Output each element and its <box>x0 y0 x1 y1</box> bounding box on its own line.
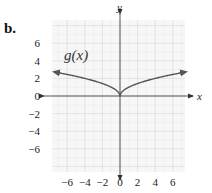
x-tick-label: −6 <box>61 176 73 188</box>
y-tick-label: −4 <box>28 125 40 137</box>
y-tick-label: −6 <box>28 143 40 155</box>
x-tick-label: 2 <box>135 176 141 188</box>
y-tick-label: −2 <box>28 108 40 120</box>
y-tick-label: 4 <box>35 55 41 67</box>
x-tick-label: 6 <box>170 176 176 188</box>
function-label: g(x) <box>64 47 88 64</box>
y-tick-label: 2 <box>35 72 41 84</box>
y-tick-label: 6 <box>35 37 41 49</box>
x-tick-label: −2 <box>97 176 109 188</box>
function-graph: −6−4−202466420−2−4−6 g(x) x y <box>0 0 212 193</box>
x-axis-label: x <box>196 90 202 102</box>
x-tick-label: −4 <box>79 176 91 188</box>
y-axis-label: y <box>116 1 122 13</box>
x-tick-label: 4 <box>152 176 158 188</box>
y-tick-label: 0 <box>35 90 41 102</box>
x-tick-label: 0 <box>117 176 123 188</box>
